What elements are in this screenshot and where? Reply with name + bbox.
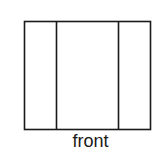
outer-rectangle: [25, 22, 151, 130]
front-view-diagram: [0, 0, 157, 152]
diagram-caption: front: [0, 131, 157, 151]
